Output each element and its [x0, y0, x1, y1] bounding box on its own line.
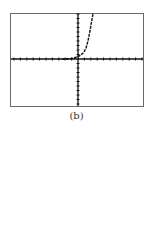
- figure-caption: (b): [0, 110, 153, 121]
